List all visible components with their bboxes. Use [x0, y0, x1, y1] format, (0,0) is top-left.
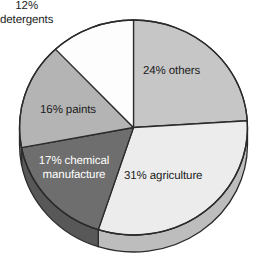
pie-chart: 24% others 31% agriculture 17% chemical …: [0, 0, 263, 267]
pie-slice-others: [134, 20, 248, 128]
pie-chart-canvas: [0, 0, 263, 267]
